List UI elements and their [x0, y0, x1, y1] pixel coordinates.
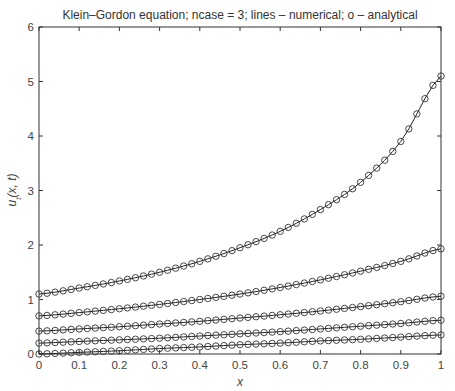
- numerical-line: [39, 320, 441, 343]
- series-group: [36, 73, 444, 357]
- y-tick-label: 0: [28, 348, 34, 360]
- x-tick-label: 0: [36, 359, 42, 371]
- y-tick-label: 5: [28, 76, 34, 88]
- x-tick-label: 0.8: [353, 359, 369, 371]
- y-tick-label: 6: [28, 21, 34, 33]
- axes-box: [39, 27, 441, 354]
- x-tick-label: 0.9: [393, 359, 409, 371]
- x-tick-label: 0.3: [152, 359, 168, 371]
- x-tick-label: 0.5: [232, 359, 248, 371]
- numerical-line: [39, 296, 441, 331]
- x-tick-label: 0.4: [192, 359, 209, 371]
- x-tick-label: 0.6: [272, 359, 288, 371]
- x-tick-label: 1: [438, 359, 444, 371]
- x-axis-ticks: 00.10.20.30.40.50.60.70.80.91: [36, 27, 444, 371]
- x-tick-label: 0.2: [111, 359, 127, 371]
- y-tick-label: 4: [28, 130, 35, 142]
- series-curve-1: [36, 73, 444, 297]
- x-axis-label: x: [236, 375, 244, 389]
- y-tick-label: 3: [28, 185, 34, 197]
- y-axis-label: ut(x, t): [5, 174, 23, 207]
- numerical-line: [39, 249, 441, 316]
- x-tick-label: 0.1: [71, 359, 87, 371]
- plot-area: 00.10.20.30.40.50.60.70.80.91 0123456: [28, 21, 445, 371]
- y-tick-label: 1: [28, 294, 34, 306]
- numerical-line: [39, 76, 441, 294]
- x-tick-label: 0.7: [312, 359, 328, 371]
- chart-title: Klein–Gordon equation; ncase = 3; lines …: [62, 8, 417, 22]
- y-tick-label: 2: [28, 239, 34, 251]
- chart: Klein–Gordon equation; ncase = 3; lines …: [0, 0, 455, 391]
